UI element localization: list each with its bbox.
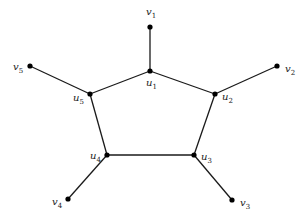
edge-u3-v3	[194, 155, 232, 200]
label-v5: v5	[13, 61, 23, 75]
label-subscript: 4	[58, 202, 63, 210]
nodes-group	[27, 24, 279, 202]
label-subscript: 3	[246, 203, 250, 211]
label-u1: u1	[146, 77, 157, 91]
edge-u4-u5	[90, 94, 107, 155]
label-u4: u4	[90, 150, 101, 164]
node-v5	[27, 63, 32, 68]
node-u3	[191, 152, 196, 157]
graph-diagram: v1u1v2u2v3u3v4u4v5u5	[0, 0, 304, 221]
node-v4	[65, 196, 70, 201]
node-v1	[147, 24, 152, 29]
label-subscript: 2	[228, 97, 232, 105]
label-v3: v3	[240, 197, 250, 211]
edge-u1-u2	[150, 71, 215, 94]
label-u3: u3	[201, 151, 212, 165]
edge-u2-u3	[194, 94, 215, 155]
edge-u5-v5	[30, 66, 90, 94]
label-subscript: 5	[19, 67, 23, 75]
label-u2: u2	[222, 91, 233, 105]
labels-group: v1u1v2u2v3u3v4u4v5u5	[13, 6, 295, 211]
edges-group	[30, 27, 277, 200]
node-u1	[147, 68, 152, 73]
label-subscript: 3	[207, 157, 211, 165]
label-subscript: 2	[291, 69, 295, 77]
edge-u2-v2	[215, 66, 277, 94]
label-v1: v1	[146, 6, 156, 20]
label-u5: u5	[73, 92, 84, 106]
node-u2	[212, 91, 217, 96]
label-subscript: 1	[152, 12, 156, 20]
edge-u4-v4	[68, 155, 107, 199]
label-v4: v4	[52, 196, 63, 210]
label-v2: v2	[285, 63, 295, 77]
node-v3	[229, 197, 234, 202]
node-v2	[274, 63, 279, 68]
label-subscript: 4	[96, 156, 101, 164]
node-u4	[104, 152, 109, 157]
label-subscript: 1	[152, 83, 156, 91]
edge-u5-u1	[90, 71, 150, 94]
node-u5	[87, 91, 92, 96]
label-subscript: 5	[79, 98, 83, 106]
